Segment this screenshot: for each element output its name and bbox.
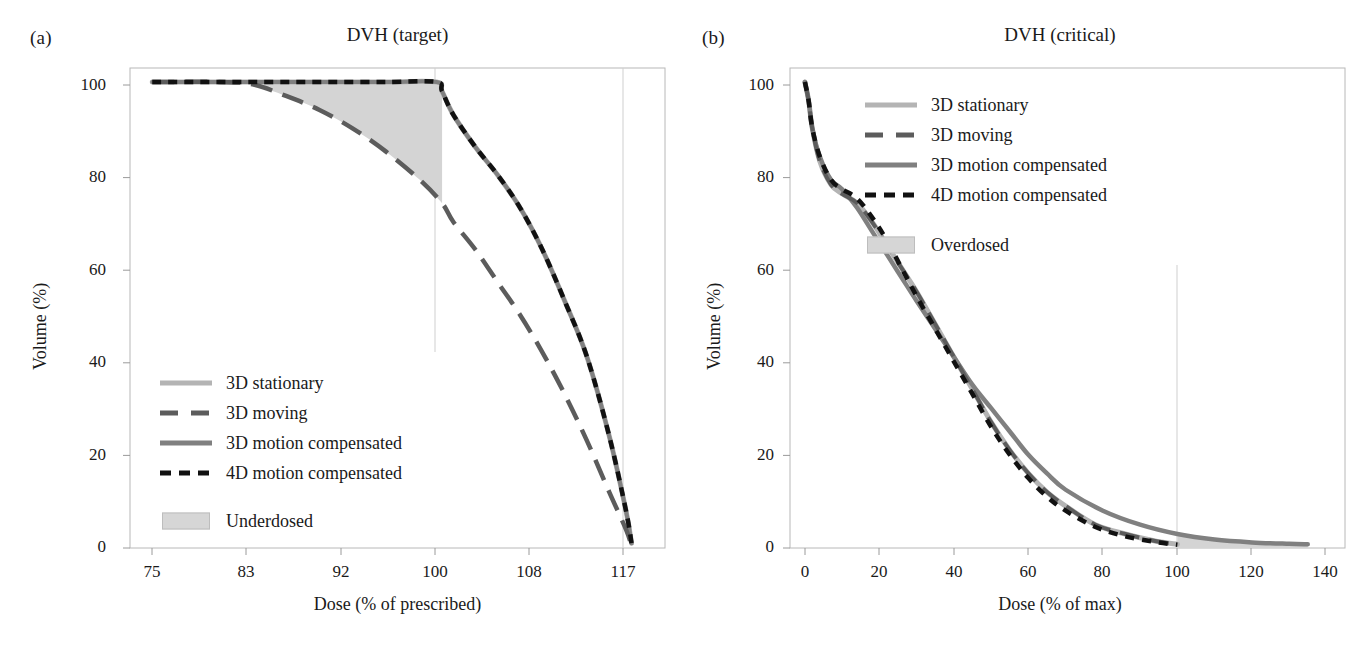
legend-swatch-long-dash-icon bbox=[160, 405, 212, 421]
legend-swatch-solid-gray-icon bbox=[160, 435, 212, 451]
panel-b-x-ticks bbox=[805, 548, 1325, 555]
panel-a-legend-row-3d-stationary[interactable]: 3D stationary bbox=[160, 368, 402, 398]
panel-a-legend-row-underdosed[interactable]: Underdosed bbox=[160, 506, 402, 536]
panel-a-legend-row-4d-motion-compensated[interactable]: 4D motion compensated bbox=[160, 458, 402, 488]
panel-a-legend-row-3d-motion-compensated[interactable]: 3D motion compensated bbox=[160, 428, 402, 458]
legend-swatch-solid-gray-icon bbox=[865, 157, 917, 173]
legend-swatch-long-dash-icon bbox=[865, 127, 917, 143]
panel-b-dvh-critical: (b) DVH (critical) Volume (%) 100 80 60 … bbox=[680, 0, 1360, 661]
panel-b-legend-label-0: 3D stationary bbox=[931, 96, 1028, 114]
panel-b-legend-row-overdosed[interactable]: Overdosed bbox=[865, 230, 1107, 260]
panel-a-underdosed-region bbox=[253, 82, 442, 203]
panel-b-legend-label-3: 4D motion compensated bbox=[931, 186, 1107, 204]
panel-b-legend-row-3d-stationary[interactable]: 3D stationary bbox=[865, 90, 1107, 120]
legend-swatch-short-dash-icon bbox=[865, 187, 917, 203]
panel-a-legend: 3D stationary 3D moving 3D motion compen… bbox=[160, 368, 402, 536]
legend-swatch-solid-light-icon bbox=[865, 97, 917, 113]
panel-b-legend-row-4d-motion-compensated[interactable]: 4D motion compensated bbox=[865, 180, 1107, 210]
panel-a-y-ticks bbox=[123, 85, 130, 548]
panel-a-dvh-target: (a) DVH (target) Volume (%) 100 80 60 40… bbox=[0, 0, 680, 661]
panel-a-legend-label-1: 3D moving bbox=[226, 404, 308, 422]
legend-swatch-shaded-box-icon bbox=[865, 237, 917, 253]
panel-b-legend: 3D stationary 3D moving 3D motion compen… bbox=[865, 90, 1107, 260]
dvh-figure: (a) DVH (target) Volume (%) 100 80 60 40… bbox=[0, 0, 1360, 661]
legend-swatch-short-dash-icon bbox=[160, 465, 212, 481]
legend-swatch-shaded-box-icon bbox=[160, 513, 212, 529]
panel-b-legend-label-area: Overdosed bbox=[931, 236, 1009, 254]
panel-b-legend-label-1: 3D moving bbox=[931, 126, 1013, 144]
panel-a-legend-label-area: Underdosed bbox=[226, 512, 313, 530]
panel-b-legend-row-3d-moving[interactable]: 3D moving bbox=[865, 120, 1107, 150]
panel-b-legend-row-3d-motion-compensated[interactable]: 3D motion compensated bbox=[865, 150, 1107, 180]
panel-a-legend-row-3d-moving[interactable]: 3D moving bbox=[160, 398, 402, 428]
legend-swatch-solid-light-icon bbox=[160, 375, 212, 391]
panel-b-legend-label-2: 3D motion compensated bbox=[931, 156, 1107, 174]
panel-a-legend-label-3: 4D motion compensated bbox=[226, 464, 402, 482]
panel-a-legend-label-0: 3D stationary bbox=[226, 374, 323, 392]
panel-b-y-ticks bbox=[783, 85, 790, 548]
panel-a-x-ticks bbox=[152, 548, 623, 555]
panel-a-legend-label-2: 3D motion compensated bbox=[226, 434, 402, 452]
